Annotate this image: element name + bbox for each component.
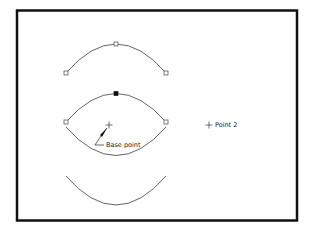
leader-arrowhead-icon bbox=[100, 128, 107, 137]
grip-middle-arc-mid-selected bbox=[114, 92, 118, 96]
grip-middle-arc-right bbox=[164, 120, 168, 124]
bottom-arc bbox=[66, 176, 166, 205]
grip-top-arc-left bbox=[64, 71, 68, 75]
point-2-crosshair-icon bbox=[206, 122, 213, 129]
point-2-label: Point 2 bbox=[215, 121, 237, 129]
grip-top-arc-right bbox=[164, 71, 168, 75]
top-arc bbox=[66, 44, 166, 73]
grip-top-arc-mid bbox=[114, 42, 118, 46]
diagram-canvas: Base point Point 2 bbox=[0, 0, 313, 231]
base-point-label: Base point bbox=[106, 141, 141, 149]
grip-middle-arc-left bbox=[64, 120, 68, 124]
base-point-crosshair-icon bbox=[106, 122, 113, 129]
drawing-frame bbox=[17, 11, 297, 221]
middle-upper-arc bbox=[66, 94, 166, 123]
